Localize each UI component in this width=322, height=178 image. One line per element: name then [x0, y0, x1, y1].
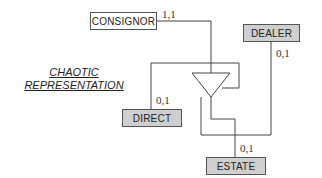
generalization-triangle [192, 73, 230, 97]
entity-estate[interactable]: ESTATE [206, 157, 266, 175]
cardinality-consignor: 1,1 [162, 8, 176, 20]
entity-dealer[interactable]: DEALER [243, 24, 300, 42]
entity-direct[interactable]: DIRECT [122, 109, 182, 127]
cardinality-direct: 0,1 [156, 94, 170, 106]
entity-estate-label: ESTATE [217, 161, 256, 172]
entity-direct-label: DIRECT [133, 113, 171, 124]
title-line-1: CHAOTIC [22, 66, 126, 79]
diagram-title: CHAOTIC REPRESENTATION [22, 66, 126, 92]
entity-dealer-label: DEALER [251, 28, 292, 39]
entity-consignor[interactable]: CONSIGNOR [90, 12, 157, 30]
entity-consignor-label: CONSIGNOR [92, 16, 155, 27]
title-line-2: REPRESENTATION [22, 79, 126, 92]
consignor-connector [157, 21, 211, 73]
cardinality-estate: 0,1 [240, 142, 254, 154]
cardinality-dealer: 0,1 [276, 47, 290, 59]
estate-connector [211, 97, 235, 157]
